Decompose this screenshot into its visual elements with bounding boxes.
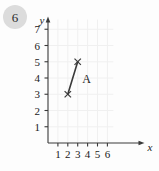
y-tick-label: 4 [35,72,41,84]
x-tick-label: 6 [105,148,111,160]
figure-container: 6 y x 123456 1234567 A [0,0,159,171]
y-tick-label: 7 [35,23,41,35]
x-tick-label: 4 [85,148,91,160]
series-labels-group: A [82,72,91,86]
x-tick-label: 2 [65,148,71,160]
x-tick-labels-group: 123456 [55,148,111,160]
x-tick-label: 5 [95,148,101,160]
series-label-a: A [82,72,91,86]
x-axis-label: x [147,141,153,153]
x-axis-arrowhead [139,141,145,146]
x-tick-label: 3 [75,148,81,160]
y-tick-label: 1 [35,121,41,133]
y-tick-label: 6 [35,40,41,52]
y-tick-label: 5 [35,56,41,68]
gridlines-group [48,20,113,144]
y-tick-labels-group: 1234567 [35,23,41,133]
coordinate-plot: y x 123456 1234567 A [0,0,159,171]
y-axis-arrowhead [46,17,51,23]
y-tick-label: 3 [35,88,41,100]
x-tick-label: 1 [55,148,61,160]
y-tick-label: 2 [35,105,41,117]
